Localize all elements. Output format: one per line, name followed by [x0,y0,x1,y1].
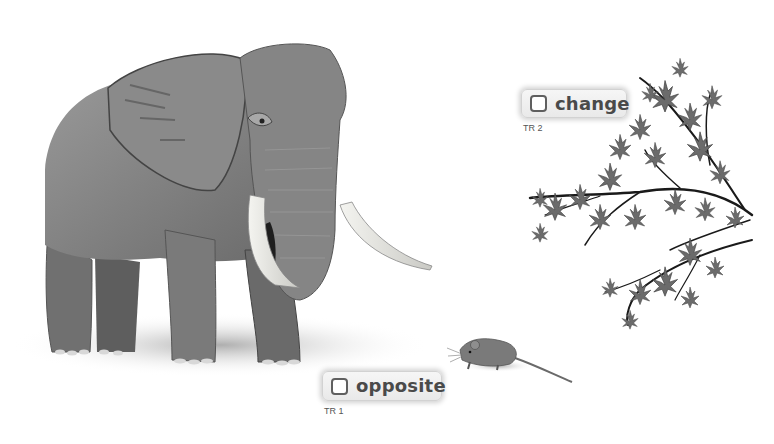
elephant-illustration [10,44,432,377]
vocab-card-change[interactable]: change [521,89,627,118]
mouse-illustration [447,339,572,382]
track-label: TR 1 [324,406,344,416]
vocab-card-opposite[interactable]: opposite [322,371,442,401]
vocab-word: change [555,95,630,113]
vocab-word: opposite [356,377,446,395]
track-label: TR 2 [523,123,543,133]
checkbox-change[interactable] [530,95,547,112]
checkbox-opposite[interactable] [331,378,348,395]
